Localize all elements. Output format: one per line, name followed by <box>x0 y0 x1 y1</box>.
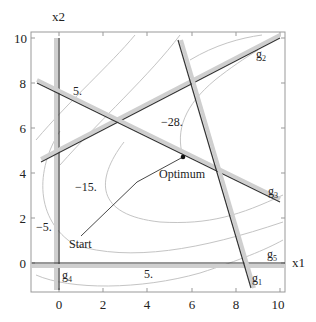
svg-text:6: 6 <box>20 121 27 136</box>
constraint-label-g1: g1 <box>252 271 262 287</box>
svg-text:2: 2 <box>100 297 107 312</box>
contour-label-5-top: 5. <box>73 84 82 98</box>
svg-text:4: 4 <box>20 166 27 181</box>
svg-text:4: 4 <box>144 297 151 312</box>
y-axis-label: x2 <box>52 9 65 24</box>
contour-label-minus28: −28. <box>161 115 183 129</box>
constraint-label-g4: g4 <box>62 268 72 284</box>
frame-ticks <box>31 32 285 292</box>
contour-label-minus5: −5. <box>36 220 52 234</box>
optimum-label: Optimum <box>159 167 206 181</box>
svg-text:2: 2 <box>20 211 27 226</box>
constraint-g4 <box>56 38 59 290</box>
y-tick-labels: 0 2 4 6 8 10 <box>14 31 27 271</box>
svg-text:6: 6 <box>189 297 196 312</box>
svg-text:0: 0 <box>20 256 27 271</box>
optimum-point <box>181 155 186 160</box>
constraint-label-g3: g3 <box>268 184 278 200</box>
start-label: Start <box>69 237 92 251</box>
contour-diagram: Optimum Start 5. −28. −15. −5. 5. g2 g3 … <box>0 0 316 322</box>
x-axis-label: x1 <box>292 255 305 270</box>
x-tick-labels: 0 2 4 6 8 10 <box>56 297 285 312</box>
svg-text:10: 10 <box>14 31 27 46</box>
contour-minus15 <box>105 142 283 223</box>
svg-text:10: 10 <box>272 297 285 312</box>
contour-top-2 <box>190 35 262 60</box>
contour-label-minus15: −15. <box>75 180 97 194</box>
constraint-label-g2: g2 <box>256 47 266 63</box>
constraint-g1 <box>178 40 254 288</box>
constraint-label-g5: g5 <box>267 247 277 263</box>
svg-text:8: 8 <box>233 297 240 312</box>
svg-text:8: 8 <box>20 76 27 91</box>
contour-label-5-bottom: 5. <box>144 267 153 281</box>
svg-text:0: 0 <box>56 297 63 312</box>
plot-frame <box>31 32 285 292</box>
